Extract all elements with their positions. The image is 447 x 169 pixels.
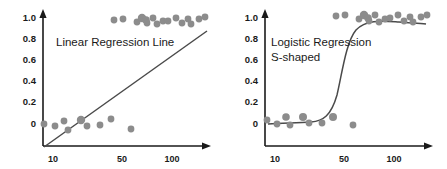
annotation-logistic-line1: Logistic Regression [271,36,371,48]
x-tick-label: 50 [339,154,349,164]
y-axis-arrowhead [39,9,46,18]
x-tick-label: 10 [270,154,280,164]
y-tick-label: 1.0 [245,12,258,23]
y-tick-label: 0.4 [23,75,37,86]
scatter-points-upper [333,11,431,26]
y-tick-label: 0.8 [245,33,258,44]
logistic-regression-plot: 1.0 0.8 0.6 0.4 0.2 0 10 50 100 [223,0,447,169]
x-tick-label: 100 [386,154,401,164]
chart-panel-logistic-regression: 1.0 0.8 0.6 0.4 0.2 0 10 50 100 [223,0,447,169]
y-tick-label: 0.2 [23,96,36,107]
chart-panel-linear-regression: 1.0 0.8 0.6 0.4 0.2 0 10 50 100 [0,0,223,169]
figure-container: 1.0 0.8 0.6 0.4 0.2 0 10 50 100 [0,0,447,169]
y-tick-label: 0 [31,118,36,129]
x-tick-label: 50 [117,154,127,164]
y-tick-label: 1.0 [23,12,36,23]
annotation-linear: Linear Regression Line [56,36,174,48]
scatter-points-upper [111,14,209,28]
y-tick-label: 0.6 [23,54,36,65]
linear-regression-plot: 1.0 0.8 0.6 0.4 0.2 0 10 50 100 [0,0,223,169]
y-axis-arrowhead [261,9,268,18]
scatter-points-lower [264,113,357,128]
x-axis-arrowhead [202,142,211,149]
y-tick-label: 0.6 [245,54,258,65]
y-tick-label: 0 [253,118,258,129]
scatter-points-lower [41,116,135,134]
annotation-logistic-line2: S-shaped [271,51,320,63]
y-tick-label: 0.4 [245,75,259,86]
y-tick-label: 0.8 [23,33,36,44]
x-axis [265,142,433,149]
x-axis [43,142,211,149]
x-tick-label: 100 [164,154,179,164]
y-axis [261,9,268,146]
x-axis-arrowhead [424,142,433,149]
x-tick-label: 10 [48,154,58,164]
y-tick-label: 0.2 [245,96,258,107]
